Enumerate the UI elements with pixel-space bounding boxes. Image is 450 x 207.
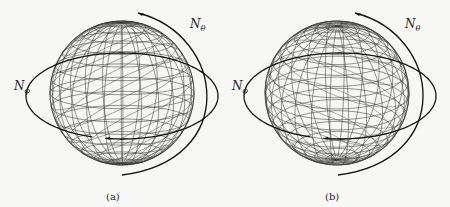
tilted-grid-line (82, 95, 194, 154)
panel-b-n-theta-label: Nθ (405, 18, 420, 33)
panel-a-n-phi-label: Nϕ (14, 80, 30, 95)
latitude-line (266, 77, 408, 130)
label-base: N (14, 79, 25, 93)
label-base: N (405, 17, 416, 31)
panel-a-wireframe-sphere (26, 13, 218, 175)
longitude-line (266, 26, 408, 160)
n-phi-rotation-ellipse (244, 53, 436, 139)
label-base: N (232, 79, 243, 93)
latitude-line (265, 66, 409, 119)
label-sub: ϕ (243, 86, 248, 95)
panel-b-n-phi-label: Nϕ (232, 80, 248, 95)
n-phi-arrowhead-icon (323, 137, 328, 140)
tilted-grid-line (280, 40, 409, 107)
longitude-line (87, 21, 158, 164)
panel-b-wireframe-sphere (244, 13, 436, 175)
figure-canvas (0, 0, 450, 207)
longitude-line (121, 21, 123, 165)
longitude-line (295, 23, 379, 164)
latitude-line (266, 56, 408, 109)
label-base: N (190, 17, 201, 31)
label-sub: ϕ (25, 86, 30, 95)
longitude-line (330, 21, 344, 165)
panel-b-caption: (b) (325, 191, 339, 202)
n-theta-arrowhead-icon (355, 13, 361, 16)
panel-a-n-theta-label: Nθ (190, 18, 205, 33)
label-sub: θ (416, 24, 421, 33)
n-phi-rotation-ellipse (26, 53, 218, 139)
latitude-line (279, 32, 396, 75)
longitude-line (265, 26, 408, 160)
longitude-line (85, 21, 158, 164)
longitude-line (312, 22, 363, 165)
longitude-line (53, 23, 192, 164)
panel-a-caption: (a) (106, 191, 120, 202)
latitude-line (279, 111, 396, 154)
label-sub: θ (201, 24, 206, 33)
n-theta-arrowhead-icon (138, 13, 144, 16)
longitude-line (291, 23, 382, 163)
